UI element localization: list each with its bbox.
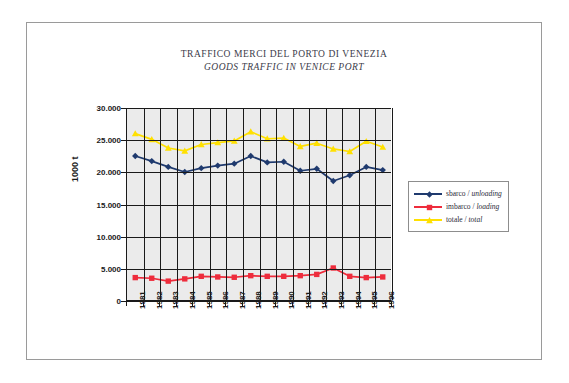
x-axis-tick-mark (374, 301, 375, 306)
legend-item[interactable]: imbarco / loading (414, 200, 502, 213)
y-axis-tick-label: 15.000 (97, 200, 121, 209)
gridline-vertical (260, 108, 261, 300)
data-point-marker (133, 275, 138, 280)
gridline-vertical (375, 108, 376, 300)
legend-item-label: imbarco / loading (446, 202, 499, 211)
x-axis-tick-mark (225, 301, 226, 306)
data-point-marker (149, 276, 154, 281)
legend-item-label: totale / total (446, 215, 482, 224)
x-axis-tick-mark (325, 301, 326, 306)
data-point-marker (149, 158, 155, 164)
x-axis-tick-mark (358, 301, 359, 306)
data-point-marker (215, 162, 221, 168)
gridline-vertical (326, 108, 327, 300)
y-axis-tick-mark (121, 140, 126, 141)
gridline-vertical (243, 108, 244, 300)
chart-legend: sbarco / unloadingimbarco / loadingtotal… (408, 181, 509, 232)
x-axis-tick-mark (192, 301, 193, 306)
gridline-vertical (276, 108, 277, 300)
data-point-marker (215, 274, 220, 279)
legend-item-label: sbarco / unloading (446, 189, 502, 198)
data-point-marker (231, 160, 237, 166)
legend-label-english: loading (476, 202, 499, 211)
y-axis-tick-label: 10.000 (97, 232, 121, 241)
gridline-vertical (359, 108, 360, 300)
y-axis-tick-label: 20.000 (97, 168, 121, 177)
data-point-marker (380, 274, 385, 279)
x-axis-tick-mark (259, 301, 260, 306)
data-point-marker (363, 164, 369, 170)
data-point-marker (314, 272, 319, 277)
y-axis-tick-label: 30.000 (97, 104, 121, 113)
x-axis-tick-mark (308, 301, 309, 306)
x-axis-tick-mark (143, 301, 144, 306)
data-point-marker (426, 217, 433, 223)
gridline-vertical (342, 108, 343, 300)
data-point-marker (198, 165, 204, 171)
data-point-marker (298, 273, 303, 278)
gridline-vertical (144, 108, 145, 300)
legend-label-italian: totale (446, 215, 463, 224)
data-point-marker (427, 205, 432, 210)
data-point-marker (264, 159, 270, 165)
y-axis-tick-mark (121, 237, 126, 238)
data-point-marker (248, 153, 254, 159)
data-point-marker (247, 128, 254, 134)
y-axis-tick-mark (121, 205, 126, 206)
x-axis-tick-mark (341, 301, 342, 306)
data-point-marker (265, 274, 270, 279)
legend-item[interactable]: sbarco / unloading (414, 187, 502, 200)
data-point-marker (426, 191, 432, 197)
legend-marker-square-icon (414, 201, 442, 212)
data-point-marker (182, 276, 187, 281)
legend-label-italian: sbarco (446, 189, 466, 198)
legend-label-italian: imbarco (446, 202, 471, 211)
x-axis-tick-mark (242, 301, 243, 306)
legend-item[interactable]: totale / total (414, 213, 502, 226)
y-axis-tick-mark (121, 108, 126, 109)
data-point-marker (232, 275, 237, 280)
gridline-vertical (226, 108, 227, 300)
chart-title-english: GOODS TRAFFIC IN VENICE PORT (27, 62, 541, 72)
data-point-marker (199, 274, 204, 279)
y-axis-tick-label: 5.000 (101, 264, 121, 273)
x-axis-tick-mark (275, 301, 276, 306)
gridline-vertical (193, 108, 194, 300)
gridline-vertical (210, 108, 211, 300)
legend-marker-diamond-icon (414, 188, 442, 199)
chart-title-italian: TRAFFICO MERCI DEL PORTO DI VENEZIA (27, 49, 541, 59)
x-axis-tick-mark (292, 301, 293, 306)
data-point-marker (248, 273, 253, 278)
plot-area (126, 108, 391, 301)
gridline-vertical (392, 108, 393, 300)
data-point-marker (281, 159, 287, 165)
x-axis-tick-mark (209, 301, 210, 306)
x-axis-tick-mark (159, 301, 160, 306)
gridline-vertical (160, 108, 161, 300)
data-point-marker (364, 275, 369, 280)
data-point-marker (165, 164, 171, 170)
y-axis-tick-mark (121, 172, 126, 173)
legend-marker-triangle-icon (414, 214, 442, 225)
gridline-vertical (177, 108, 178, 300)
legend-label-english: unloading (471, 189, 501, 198)
x-axis-tick-mark (176, 301, 177, 306)
gridline-vertical (309, 108, 310, 300)
x-axis-tick-mark (391, 301, 392, 306)
chart-title-block: TRAFFICO MERCI DEL PORTO DI VENEZIA GOOD… (27, 49, 541, 72)
x-axis-tick-mark (126, 301, 127, 306)
y-axis-tick-labels: 30.00025.00020.00015.00010.0005.0000 (76, 108, 121, 301)
data-point-marker (132, 153, 138, 159)
data-point-marker (347, 274, 352, 279)
data-point-marker (166, 278, 171, 283)
data-point-marker (281, 274, 286, 279)
y-axis-tick-label: 25.000 (97, 136, 121, 145)
data-point-marker (132, 130, 139, 136)
y-axis-tick-mark (121, 269, 126, 270)
legend-label-english: total (469, 215, 483, 224)
gridline-vertical (293, 108, 294, 300)
